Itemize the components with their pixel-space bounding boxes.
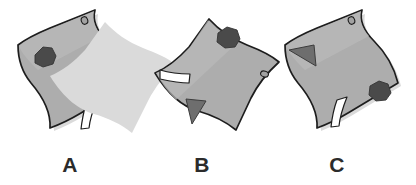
shape-a-label: A (62, 153, 78, 176)
shape-c-label: C (329, 153, 345, 176)
stimulus-canvas: A B (0, 0, 416, 185)
shape-b-label: B (194, 153, 210, 176)
shape-group-c[interactable]: C (285, 10, 401, 176)
figure-panel: A B (0, 0, 416, 185)
